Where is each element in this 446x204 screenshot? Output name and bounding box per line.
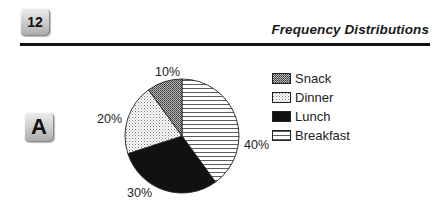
snack-swatch-icon <box>272 73 291 84</box>
pie-chart <box>0 0 446 204</box>
lunch-swatch-icon <box>272 111 291 122</box>
chart-legend: Snack Dinner Lunch Breakfast <box>272 69 350 145</box>
legend-item-breakfast: Breakfast <box>272 126 350 145</box>
slice-label-dinner: 20% <box>97 112 122 126</box>
legend-label: Breakfast <box>295 128 350 143</box>
legend-label: Lunch <box>295 109 330 124</box>
legend-label: Dinner <box>295 90 333 105</box>
legend-item-snack: Snack <box>272 69 350 88</box>
legend-item-dinner: Dinner <box>272 88 350 107</box>
slice-label-breakfast: 40% <box>244 138 269 152</box>
legend-label: Snack <box>295 71 331 86</box>
dinner-swatch-icon <box>272 92 291 103</box>
slice-label-lunch: 30% <box>127 186 152 200</box>
pie-slices <box>125 79 239 193</box>
slice-label-snack: 10% <box>155 65 180 79</box>
breakfast-swatch-icon <box>272 130 291 141</box>
legend-item-lunch: Lunch <box>272 107 350 126</box>
